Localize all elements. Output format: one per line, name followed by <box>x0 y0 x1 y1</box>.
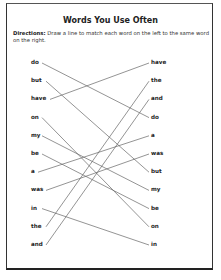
left-word[interactable]: but <box>31 77 42 84</box>
right-word[interactable]: in <box>151 241 157 248</box>
match-line <box>38 136 149 172</box>
right-word[interactable]: my <box>151 186 160 193</box>
match-line <box>50 63 149 99</box>
left-word[interactable]: on <box>31 114 39 121</box>
right-word[interactable]: the <box>151 77 161 84</box>
left-word[interactable]: my <box>31 132 40 139</box>
match-line <box>42 136 149 191</box>
match-line <box>42 209 149 245</box>
match-line <box>46 99 149 245</box>
left-word[interactable]: the <box>31 223 41 230</box>
right-word[interactable]: on <box>151 223 159 230</box>
left-word[interactable]: and <box>31 241 43 248</box>
right-word[interactable]: a <box>151 132 155 139</box>
match-line <box>42 63 149 118</box>
match-line <box>42 154 149 209</box>
matching-lines <box>0 0 221 280</box>
right-word[interactable]: but <box>151 168 162 175</box>
left-word[interactable]: be <box>31 150 39 157</box>
left-word[interactable]: have <box>31 95 46 102</box>
left-word[interactable]: a <box>31 168 35 175</box>
right-word[interactable]: and <box>151 95 163 102</box>
left-word[interactable]: was <box>31 186 43 193</box>
right-word[interactable]: was <box>151 150 163 157</box>
right-word[interactable]: be <box>151 205 159 212</box>
left-word[interactable]: do <box>31 59 39 66</box>
right-word[interactable]: do <box>151 114 159 121</box>
match-line <box>42 118 149 227</box>
left-word[interactable]: in <box>31 205 37 212</box>
right-word[interactable]: have <box>151 59 166 66</box>
match-line <box>46 81 149 227</box>
